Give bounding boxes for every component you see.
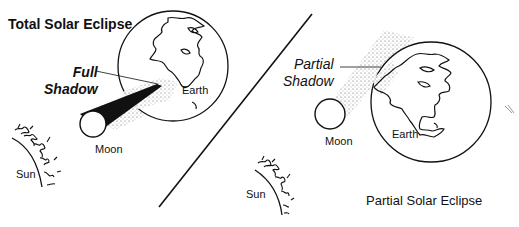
partial-shadow-label: Partial Shadow (283, 56, 334, 90)
sun-label-left: Sun (16, 169, 36, 180)
moon-label-left: Moon (95, 144, 123, 155)
total-eclipse-title: Total Solar Eclipse (8, 17, 132, 31)
sun-flares-right (258, 156, 294, 214)
stray-mark (505, 105, 514, 113)
partial-eclipse-title: Partial Solar Eclipse (366, 194, 482, 207)
moon-left (80, 111, 106, 137)
full-shadow-label: Full Shadow (44, 64, 98, 98)
earth-label-right: Earth (392, 129, 418, 140)
partial-shadow-line1: Partial (283, 56, 334, 73)
earth-label-left: Earth (182, 85, 208, 96)
full-shadow-line1: Full (44, 64, 98, 81)
earth-globe-right (371, 42, 491, 162)
moon-label-right: Moon (325, 136, 353, 147)
full-shadow-line2: Shadow (44, 81, 98, 98)
sun-label-right: Sun (246, 189, 266, 200)
partial-shadow-line2: Shadow (283, 73, 334, 90)
moon-right (315, 99, 345, 129)
